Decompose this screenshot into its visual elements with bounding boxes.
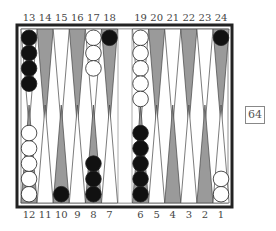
- checker-white[interactable]: [21, 125, 37, 141]
- checker-white[interactable]: [21, 156, 37, 172]
- point-label-1: 1: [213, 209, 229, 220]
- point-label-3: 3: [181, 209, 197, 220]
- point-label-20: 20: [149, 12, 165, 23]
- checker-black[interactable]: [21, 61, 37, 77]
- checker-black[interactable]: [133, 141, 149, 157]
- checker-white[interactable]: [86, 45, 102, 61]
- checker-white[interactable]: [133, 91, 149, 107]
- doubling-cube[interactable]: 64: [245, 106, 265, 124]
- checker-white[interactable]: [213, 171, 229, 187]
- point-label-7: 7: [102, 209, 118, 220]
- point-label-23: 23: [197, 12, 213, 23]
- point-label-12: 12: [21, 209, 37, 220]
- checker-white[interactable]: [213, 186, 229, 202]
- point-label-8: 8: [85, 209, 101, 220]
- checker-white[interactable]: [86, 30, 102, 46]
- center-bar[interactable]: [118, 29, 132, 203]
- checker-black[interactable]: [86, 156, 102, 172]
- point-label-19: 19: [133, 12, 149, 23]
- checker-black[interactable]: [133, 186, 149, 202]
- checker-black[interactable]: [133, 171, 149, 187]
- point-label-11: 11: [37, 209, 53, 220]
- point-label-10: 10: [53, 209, 69, 220]
- checker-black[interactable]: [21, 30, 37, 46]
- checker-white[interactable]: [133, 61, 149, 77]
- checker-black[interactable]: [133, 125, 149, 141]
- checker-black[interactable]: [86, 171, 102, 187]
- point-label-6: 6: [133, 209, 149, 220]
- checker-white[interactable]: [133, 45, 149, 61]
- checker-black[interactable]: [133, 156, 149, 172]
- checker-white[interactable]: [86, 61, 102, 77]
- point-label-2: 2: [197, 209, 213, 220]
- point-label-4: 4: [165, 209, 181, 220]
- point-label-18: 18: [102, 12, 118, 23]
- point-label-9: 9: [69, 209, 85, 220]
- point-label-16: 16: [69, 12, 85, 23]
- backgammon-board[interactable]: [0, 0, 276, 231]
- checker-black[interactable]: [213, 30, 229, 46]
- checker-black[interactable]: [102, 30, 118, 46]
- point-label-17: 17: [85, 12, 101, 23]
- checker-white[interactable]: [133, 30, 149, 46]
- checker-black[interactable]: [86, 186, 102, 202]
- point-label-13: 13: [21, 12, 37, 23]
- point-label-21: 21: [165, 12, 181, 23]
- point-label-5: 5: [149, 209, 165, 220]
- point-label-15: 15: [53, 12, 69, 23]
- checker-white[interactable]: [133, 76, 149, 92]
- point-label-14: 14: [37, 12, 53, 23]
- checker-black[interactable]: [21, 76, 37, 92]
- point-label-24: 24: [213, 12, 229, 23]
- checker-black[interactable]: [53, 186, 69, 202]
- checker-black[interactable]: [21, 45, 37, 61]
- checker-white[interactable]: [21, 186, 37, 202]
- checker-white[interactable]: [21, 141, 37, 157]
- checker-white[interactable]: [21, 171, 37, 187]
- point-label-22: 22: [181, 12, 197, 23]
